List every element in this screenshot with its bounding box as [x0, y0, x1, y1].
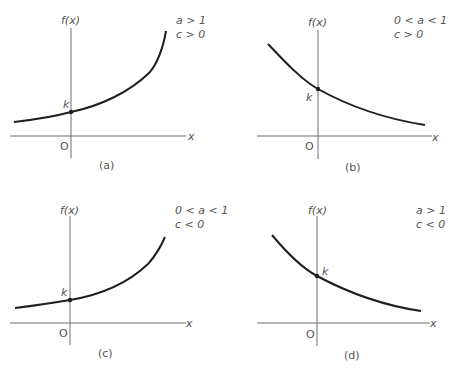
x-axis-label: x: [429, 317, 437, 330]
exponential-graphs-figure: f(x) x O k a > 1 c > 0 (a) f(x) x O k 0 …: [0, 0, 459, 373]
y-axis-label: f(x): [60, 204, 79, 217]
curve: [15, 237, 165, 308]
x-axis-label: x: [431, 131, 439, 144]
condition-a: a > 1: [416, 204, 446, 217]
origin-label: O: [60, 140, 69, 153]
condition-c: c < 0: [175, 218, 204, 231]
k-point: [316, 87, 320, 91]
k-point: [69, 110, 73, 114]
panel-a: f(x) x O k a > 1 c > 0 (a): [10, 14, 206, 172]
x-axis-label: x: [185, 317, 193, 330]
origin-label: O: [305, 140, 314, 153]
condition-a: 0 < a < 1: [394, 14, 447, 27]
panel-d: f(x) x O k a > 1 c < 0 (d): [257, 204, 446, 362]
k-point: [68, 298, 72, 302]
condition-a: a > 1: [176, 14, 206, 27]
condition-c: c > 0: [394, 28, 423, 41]
caption: (c): [98, 347, 113, 360]
caption: (b): [345, 161, 361, 174]
condition-a: 0 < a < 1: [175, 204, 228, 217]
panel-b: f(x) x O k 0 < a < 1 c > 0 (b): [257, 14, 447, 174]
panel-c: f(x) x O k 0 < a < 1 c < 0 (c): [10, 204, 228, 360]
k-label: k: [63, 98, 70, 111]
curve: [272, 235, 421, 311]
x-axis-label: x: [187, 130, 195, 143]
curve: [268, 44, 425, 125]
y-axis-label: f(x): [308, 16, 327, 29]
condition-c: c < 0: [416, 218, 445, 231]
origin-label: O: [306, 328, 315, 341]
k-label: k: [322, 265, 329, 278]
k-point: [315, 274, 319, 278]
origin-label: O: [59, 327, 68, 340]
k-label: k: [61, 286, 68, 299]
y-axis-label: f(x): [61, 14, 80, 27]
caption: (a): [99, 159, 114, 172]
caption: (d): [344, 349, 360, 362]
curve: [14, 31, 166, 122]
k-label: k: [306, 91, 313, 104]
y-axis-label: f(x): [308, 204, 327, 217]
condition-c: c > 0: [176, 28, 205, 41]
